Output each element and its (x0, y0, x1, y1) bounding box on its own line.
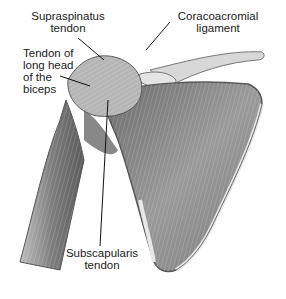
label-line: of the (23, 71, 74, 83)
label-line: long head (23, 59, 74, 71)
label-coracoacromial-ligament: Coracoacromial ligament (166, 10, 270, 34)
humeral-head (68, 56, 142, 117)
label-line: tendon (20, 22, 116, 34)
leader-supraspinatus (78, 38, 104, 60)
label-line: Supraspinatus (20, 10, 116, 22)
label-line: Tendon of (23, 47, 74, 59)
label-line: Subscapularis (50, 247, 154, 259)
label-line: biceps (23, 83, 74, 95)
label-line: ligament (166, 22, 270, 34)
label-line: tendon (50, 259, 154, 271)
leader-subscapularis (100, 100, 108, 246)
label-line: Coracoacromial (166, 10, 270, 22)
label-subscapularis-tendon: Subscapularis tendon (50, 247, 154, 271)
label-supraspinatus-tendon: Supraspinatus tendon (20, 10, 116, 34)
label-biceps-long-head-tendon: Tendon of long head of the biceps (23, 47, 74, 95)
